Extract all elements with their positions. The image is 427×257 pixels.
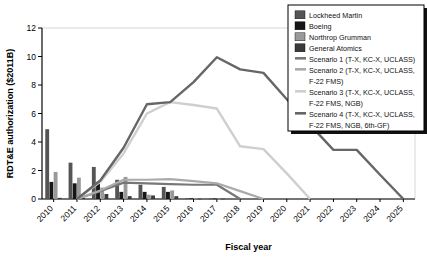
bar bbox=[213, 199, 217, 200]
y-tick-label: 2 bbox=[31, 166, 36, 176]
bar bbox=[69, 163, 73, 199]
bar bbox=[139, 185, 143, 199]
bar bbox=[128, 196, 132, 199]
legend-swatch bbox=[295, 11, 305, 19]
bar bbox=[162, 187, 166, 199]
bar bbox=[194, 199, 198, 200]
x-tick-label: 2018 bbox=[221, 203, 242, 224]
x-tick-label: 2025 bbox=[384, 203, 405, 224]
bar bbox=[189, 198, 193, 199]
bar bbox=[54, 172, 58, 199]
legend-label: Scenario 2 (T-X, KC-X, UCLASS, bbox=[309, 66, 415, 75]
bar bbox=[119, 192, 123, 199]
bar bbox=[73, 183, 77, 199]
bar bbox=[147, 195, 151, 199]
legend-swatch bbox=[295, 33, 305, 41]
x-axis-title: Fiscal year bbox=[225, 242, 272, 252]
x-tick-label: 2014 bbox=[128, 203, 149, 224]
bar bbox=[166, 192, 170, 199]
legend-label: Scenario 3 (T-X, KC-X, UCLASS, bbox=[309, 88, 415, 97]
bar bbox=[104, 194, 108, 199]
y-tick-label: 12 bbox=[27, 23, 37, 33]
x-tick-label: 2016 bbox=[174, 203, 195, 224]
chart-container: 024681012RDT&E authorization ($2011B)201… bbox=[0, 0, 427, 257]
x-tick-label: 2020 bbox=[268, 203, 289, 224]
x-tick-label: 2010 bbox=[35, 203, 56, 224]
legend-label: Scenario 4 (T-X, KC-X, UCLASS, bbox=[309, 110, 415, 119]
x-tick-label: 2013 bbox=[105, 203, 126, 224]
legend-line-swatch bbox=[295, 112, 306, 115]
bar bbox=[221, 199, 225, 200]
legend-label: Boeing bbox=[309, 22, 331, 31]
bar bbox=[49, 182, 53, 199]
bar bbox=[45, 129, 49, 199]
y-tick-label: 6 bbox=[31, 109, 36, 119]
bar bbox=[58, 198, 62, 199]
x-tick-label: 2019 bbox=[244, 203, 265, 224]
y-tick-label: 0 bbox=[31, 194, 36, 204]
rdte-authorization-chart: 024681012RDT&E authorization ($2011B)201… bbox=[0, 0, 427, 257]
legend-label-continuation: F-22 FMS, NGB, 6th-GF) bbox=[309, 121, 389, 130]
x-tick-label: 2012 bbox=[81, 203, 102, 224]
y-tick-label: 10 bbox=[27, 52, 37, 62]
y-tick-label: 8 bbox=[31, 80, 36, 90]
x-tick-label: 2024 bbox=[361, 203, 382, 224]
x-tick-label: 2011 bbox=[58, 203, 78, 223]
bar bbox=[198, 199, 202, 200]
bar bbox=[174, 196, 178, 199]
y-tick-label: 4 bbox=[31, 137, 36, 147]
bar bbox=[170, 190, 174, 199]
legend-line-swatch bbox=[295, 68, 306, 71]
x-tick-label: 2017 bbox=[198, 203, 219, 224]
legend-swatch bbox=[295, 22, 305, 30]
legend-label-continuation: F-22 FMS, NGB) bbox=[309, 99, 363, 108]
x-tick-label: 2022 bbox=[314, 203, 335, 224]
legend-line-swatch bbox=[295, 57, 306, 60]
chart-legend: Lockheed MartinBoeingNorthrop GrummanGen… bbox=[288, 5, 427, 134]
x-tick-label: 2023 bbox=[338, 203, 359, 224]
legend-label: General Atomics bbox=[309, 44, 362, 53]
bar bbox=[217, 199, 221, 200]
bar bbox=[185, 198, 189, 199]
legend-swatch bbox=[295, 44, 305, 52]
bar-series-group bbox=[45, 129, 225, 199]
y-axis-title: RDT&E authorization ($2011B) bbox=[5, 49, 15, 179]
bar bbox=[143, 192, 147, 199]
legend-label: Northrop Grumman bbox=[309, 33, 371, 42]
x-tick-label: 2015 bbox=[151, 203, 172, 224]
bar bbox=[151, 195, 155, 199]
legend-label: Scenario 1 (T-X, KC-X, UCLASS) bbox=[309, 55, 415, 64]
bar bbox=[208, 199, 212, 200]
legend-label: Lockheed Martin bbox=[309, 11, 362, 20]
x-tick-label: 2021 bbox=[291, 203, 312, 224]
legend-line-swatch bbox=[295, 90, 306, 93]
legend-label-continuation: F-22 FMS) bbox=[309, 77, 343, 86]
